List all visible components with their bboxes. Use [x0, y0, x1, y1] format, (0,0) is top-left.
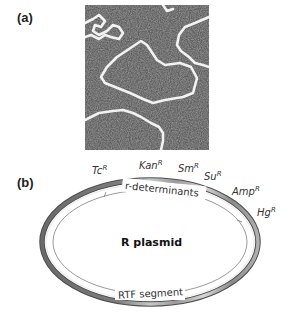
gene-amp-label: AmpR: [231, 185, 260, 197]
gene-kan-label: KanR: [139, 160, 163, 171]
micrograph-image: [85, 5, 209, 150]
gene-su-label: SuR: [204, 170, 222, 182]
gene-tc-label: TcR: [92, 164, 107, 176]
gene-hg-label: HgR: [257, 206, 276, 218]
panel-a-label: (a): [17, 10, 33, 25]
plasmid-title: R plasmid: [121, 236, 182, 249]
r-plasmid-diagram: r-determinants RTF segment R plasmid TcR…: [0, 160, 291, 313]
gene-sm-label: SmR: [178, 162, 199, 174]
